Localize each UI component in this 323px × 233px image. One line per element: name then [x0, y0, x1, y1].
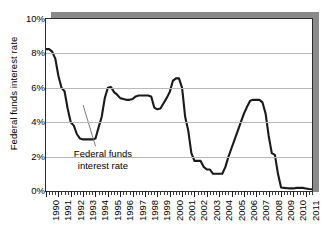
- x-axis-minor-tick: [86, 191, 87, 195]
- x-axis-minor-tick: [154, 191, 155, 195]
- x-axis-minor-tick: [235, 191, 236, 195]
- x-axis-minor-tick: [136, 191, 137, 195]
- x-axis-major-tick: [157, 191, 158, 197]
- x-axis-major-tick: [170, 191, 171, 197]
- x-axis-minor-tick: [201, 191, 202, 195]
- x-axis-major-tick: [46, 191, 47, 197]
- x-axis-minor-tick: [130, 191, 131, 195]
- x-axis-major-tick: [108, 191, 109, 197]
- x-axis-major-tick: [293, 191, 294, 197]
- x-axis-minor-tick: [198, 191, 199, 195]
- x-axis-tick-label: 1998: [149, 200, 160, 221]
- x-axis-minor-tick: [272, 191, 273, 195]
- x-axis-minor-tick: [241, 191, 242, 195]
- x-axis-minor-tick: [222, 191, 223, 195]
- x-axis-minor-tick: [179, 191, 180, 195]
- x-axis-minor-tick: [213, 191, 214, 195]
- x-axis-minor-tick: [89, 191, 90, 195]
- x-axis-minor-tick: [164, 191, 165, 195]
- x-axis-minor-tick: [312, 191, 313, 195]
- x-axis-major-tick: [83, 191, 84, 197]
- x-axis-minor-tick: [284, 191, 285, 195]
- x-axis-minor-tick: [247, 191, 248, 195]
- x-axis-minor-tick: [55, 191, 56, 195]
- x-axis-major-tick: [95, 191, 96, 197]
- x-axis-minor-tick: [114, 191, 115, 195]
- x-axis-minor-tick: [123, 191, 124, 195]
- x-axis-minor-tick: [105, 191, 106, 195]
- x-axis-tick-label: 2003: [211, 200, 222, 221]
- x-axis-minor-tick: [151, 191, 152, 195]
- x-axis-tick-label: 2004: [223, 200, 234, 221]
- x-axis-minor-tick: [99, 191, 100, 195]
- x-axis-minor-tick: [80, 191, 81, 195]
- x-axis-tick-label: 2005: [236, 200, 247, 221]
- x-axis-minor-tick: [300, 191, 301, 195]
- y-axis-tick-label: 0%: [11, 185, 45, 196]
- x-axis-major-tick: [281, 191, 282, 197]
- series-callout-annotation: Federal funds interest rate: [59, 148, 147, 171]
- x-axis-minor-tick: [142, 191, 143, 195]
- x-axis-minor-tick: [253, 191, 254, 195]
- x-axis-major-tick: [71, 191, 72, 197]
- x-axis-minor-tick: [275, 191, 276, 195]
- x-axis-minor-tick: [167, 191, 168, 195]
- x-axis-minor-tick: [92, 191, 93, 195]
- x-axis-tick-label: 1990: [50, 200, 61, 221]
- x-axis-minor-tick: [250, 191, 251, 195]
- x-axis-major-tick: [194, 191, 195, 197]
- x-axis-tick-label: 2002: [198, 200, 209, 221]
- gridline: [46, 122, 312, 123]
- x-axis-major-tick: [133, 191, 134, 197]
- x-axis-major-tick: [58, 191, 59, 197]
- x-axis-minor-tick: [225, 191, 226, 195]
- x-axis-minor-tick: [238, 191, 239, 195]
- x-axis-minor-tick: [204, 191, 205, 195]
- gridline: [46, 53, 312, 54]
- x-axis-minor-tick: [216, 191, 217, 195]
- x-axis-major-tick: [269, 191, 270, 197]
- x-axis-minor-tick: [297, 191, 298, 195]
- x-axis-minor-tick: [188, 191, 189, 195]
- x-axis-minor-tick: [303, 191, 304, 195]
- x-axis-tick-label: 2007: [260, 200, 271, 221]
- x-axis-tick-label: 1993: [87, 200, 98, 221]
- x-axis-minor-tick: [111, 191, 112, 195]
- x-axis-major-tick: [120, 191, 121, 197]
- x-axis-minor-tick: [290, 191, 291, 195]
- x-axis-major-tick: [145, 191, 146, 197]
- x-axis-minor-tick: [185, 191, 186, 195]
- x-axis-tick-label: 1996: [124, 200, 135, 221]
- chart-figure: 10%8%6%4%2%0% Federal funds interest rat…: [0, 0, 323, 233]
- x-axis-minor-tick: [148, 191, 149, 195]
- x-axis-tick-label: 1992: [75, 200, 86, 221]
- x-axis-minor-tick: [49, 191, 50, 195]
- y-axis-title: Federal funds interest rate: [8, 4, 19, 184]
- x-axis-minor-tick: [102, 191, 103, 195]
- x-axis-major-tick: [306, 191, 307, 197]
- x-axis-minor-tick: [68, 191, 69, 195]
- x-axis-minor-tick: [77, 191, 78, 195]
- x-axis-minor-tick: [309, 191, 310, 195]
- x-axis-tick-label: 2008: [273, 200, 284, 221]
- x-axis-minor-tick: [266, 191, 267, 195]
- x-axis-major-tick: [244, 191, 245, 197]
- x-axis-tick-label: 2001: [186, 200, 197, 221]
- x-axis-tick-label: 2000: [174, 200, 185, 221]
- x-axis-tick-label: 1991: [62, 200, 73, 221]
- x-axis-minor-tick: [173, 191, 174, 195]
- x-axis-tick-label: 1999: [161, 200, 172, 221]
- x-axis-major-tick: [256, 191, 257, 197]
- series-callout-line-1: Federal funds: [59, 148, 147, 160]
- x-axis-minor-tick: [210, 191, 211, 195]
- x-axis-minor-tick: [228, 191, 229, 195]
- x-axis-minor-tick: [52, 191, 53, 195]
- gridline: [46, 88, 312, 89]
- x-axis-tick-label: 1995: [112, 200, 123, 221]
- x-axis-minor-tick: [117, 191, 118, 195]
- x-axis-minor-tick: [160, 191, 161, 195]
- x-axis-minor-tick: [61, 191, 62, 195]
- x-axis-tick-label: 2011: [310, 201, 321, 221]
- x-axis-minor-tick: [176, 191, 177, 195]
- x-axis-tick-label: 1994: [99, 200, 110, 221]
